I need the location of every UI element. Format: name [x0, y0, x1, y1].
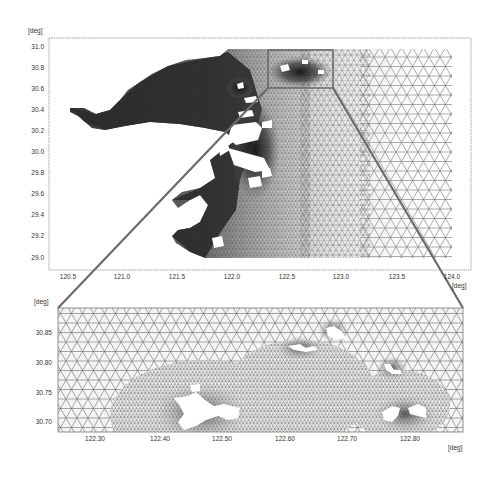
lower-x-tick: 122.50	[204, 435, 240, 442]
upper-x-tick: 124.0	[434, 273, 470, 280]
upper-x-tick: 123.5	[379, 273, 415, 280]
upper-y-tick: 30.8	[14, 64, 44, 71]
upper-y-tick: 29.0	[14, 254, 44, 261]
lower-x-unit-label: [deg]	[448, 444, 462, 451]
upper-y-tick: 30.0	[14, 148, 44, 155]
lower-y-tick: 30.85	[22, 329, 52, 336]
lower-x-tick: 122.80	[392, 435, 428, 442]
lower-x-tick: 122.40	[142, 435, 178, 442]
upper-y-tick: 29.6	[14, 190, 44, 197]
upper-x-tick: 120.5	[50, 273, 86, 280]
upper-x-unit-label: [deg]	[452, 282, 466, 289]
upper-y-unit-label: [deg]	[28, 27, 42, 34]
mesh-figure	[0, 0, 494, 478]
upper-plot	[49, 38, 471, 270]
lower-plot	[58, 308, 463, 470]
upper-y-tick: 30.2	[14, 127, 44, 134]
upper-x-tick: 123.0	[323, 273, 359, 280]
upper-y-tick: 31.0	[14, 43, 44, 50]
upper-y-tick: 30.4	[14, 106, 44, 113]
lower-x-tick: 122.30	[77, 435, 113, 442]
lower-y-tick: 30.80	[22, 359, 52, 366]
lower-y-tick: 30.70	[22, 418, 52, 425]
lower-x-tick: 122.70	[329, 435, 365, 442]
upper-x-tick: 122.5	[269, 273, 305, 280]
lower-mesh	[58, 308, 463, 470]
lower-y-tick: 30.75	[22, 389, 52, 396]
upper-y-tick: 29.8	[14, 169, 44, 176]
upper-x-tick: 122.0	[214, 273, 250, 280]
upper-x-tick: 121.0	[104, 273, 140, 280]
lower-x-tick: 122.60	[267, 435, 303, 442]
upper-x-tick: 121.5	[159, 273, 195, 280]
lower-y-unit-label: [deg]	[34, 298, 48, 305]
upper-y-tick: 30.6	[14, 85, 44, 92]
upper-y-tick: 29.4	[14, 211, 44, 218]
upper-y-tick: 29.2	[14, 232, 44, 239]
